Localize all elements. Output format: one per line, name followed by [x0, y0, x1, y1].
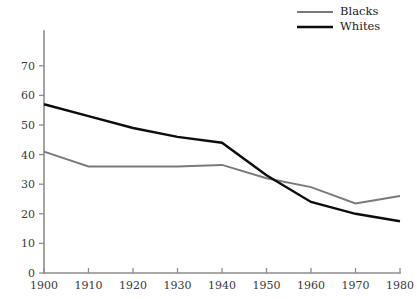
x-tick-label: 1950	[253, 279, 281, 292]
line-chart: 010203040506070 190019101920193019401950…	[0, 0, 417, 299]
x-tick-label: 1910	[75, 279, 103, 292]
x-tick-label: 1980	[386, 279, 414, 292]
y-axis: 010203040506070	[21, 31, 44, 280]
series-line-blacks	[44, 152, 400, 204]
x-axis: 190019101920193019401950196019701980	[30, 268, 414, 292]
x-tick-label: 1900	[30, 279, 58, 292]
y-tick-label: 60	[21, 89, 35, 102]
x-tick-label: 1930	[164, 279, 192, 292]
legend-label-whites: Whites	[340, 19, 380, 33]
y-tick-label: 70	[21, 60, 35, 73]
y-tick-label: 40	[21, 149, 35, 162]
x-axis-tick-labels: 190019101920193019401950196019701980	[30, 279, 414, 292]
chart-legend: BlacksWhites	[297, 4, 380, 33]
data-series-group	[44, 104, 400, 221]
x-tick-label: 1940	[208, 279, 236, 292]
y-tick-label: 10	[21, 237, 35, 250]
x-tick-label: 1970	[342, 279, 370, 292]
y-tick-label: 30	[21, 178, 35, 191]
series-line-whites	[44, 104, 400, 221]
chart-container: 010203040506070 190019101920193019401950…	[0, 0, 417, 299]
y-tick-label: 50	[21, 119, 35, 132]
x-tick-label: 1920	[119, 279, 147, 292]
legend-label-blacks: Blacks	[340, 4, 378, 18]
y-axis-tick-labels: 010203040506070	[21, 60, 35, 280]
y-tick-label: 20	[21, 208, 35, 221]
x-tick-label: 1960	[297, 279, 325, 292]
